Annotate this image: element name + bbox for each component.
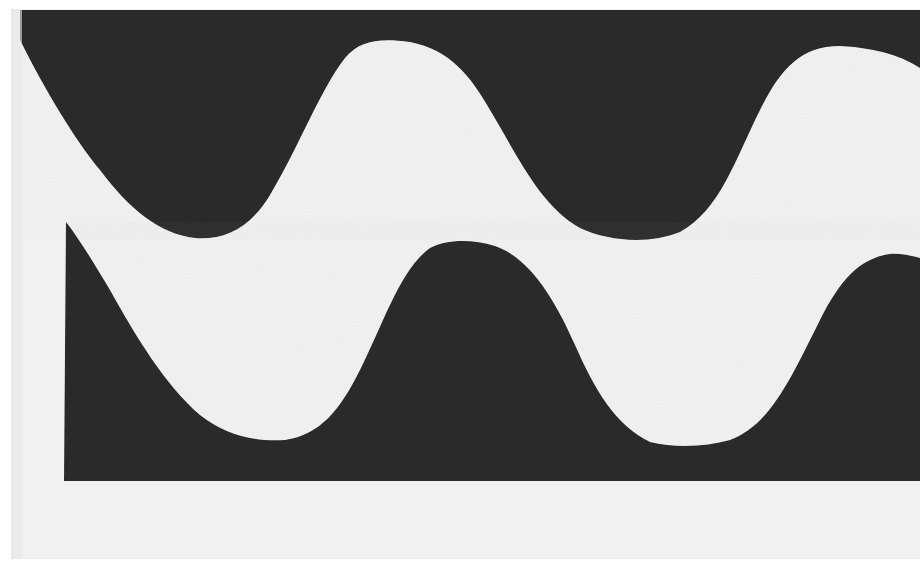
paper-cutout-artwork — [0, 0, 920, 577]
photograph — [0, 0, 920, 577]
paper-fold-shadow — [12, 9, 22, 559]
